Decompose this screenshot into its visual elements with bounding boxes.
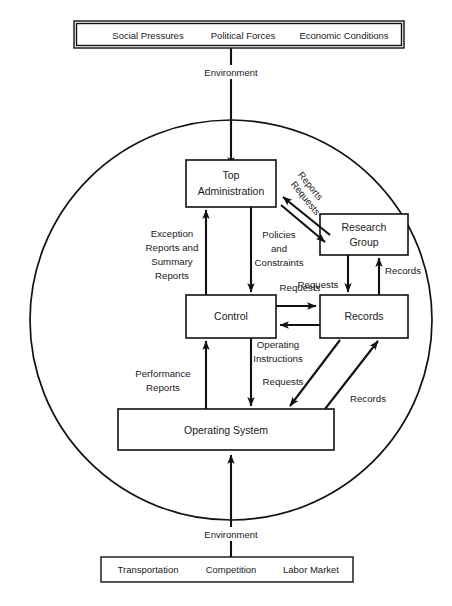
bottom-env-item-1: Competition <box>206 564 257 575</box>
edge-label-exception-line4: Reports <box>155 270 189 281</box>
edge-label-exception-line3: Summary <box>151 256 193 267</box>
edge-label-requests-operating-system: Requests <box>263 376 304 387</box>
edge-label-operating-line2: Instructions <box>253 353 303 364</box>
edge-label-performance-line2: Reports <box>146 382 180 393</box>
node-label-research-group-line2: Group <box>349 236 378 248</box>
node-label-records: Records <box>344 310 383 322</box>
node-label-top-administration-line2: Administration <box>198 185 265 197</box>
edge-label-operating-line1: Operating <box>257 339 300 350</box>
bottom-env-item-2: Labor Market <box>283 564 339 575</box>
edge-label-policies-line3: Constraints <box>255 257 304 268</box>
edge-label-requests-control-records-hidden: Requests <box>280 282 321 293</box>
edge-label-records-operating-system: Records <box>350 393 386 404</box>
bottom-env-item-0: Transportation <box>118 564 179 575</box>
env-label-top: Environment <box>204 67 258 78</box>
edge-label-exception-line2: Reports and <box>146 242 199 253</box>
edge-label-records-research-group: Records <box>385 265 421 276</box>
edge-label-performance-line1: Performance <box>135 368 190 379</box>
node-label-operating-system: Operating System <box>184 424 268 436</box>
node-top-administration[interactable] <box>186 160 276 207</box>
top-env-item-2: Economic Conditions <box>299 30 388 41</box>
organization-information-flow-diagram: Social Pressures Political Forces Econom… <box>0 0 452 606</box>
node-label-top-administration-line1: Top <box>223 169 240 181</box>
env-label-bottom: Environment <box>204 529 258 540</box>
edge-label-exception-line1: Exception <box>151 228 194 239</box>
edge-label-policies-line1: Policies <box>262 229 296 240</box>
top-env-item-0: Social Pressures <box>112 30 184 41</box>
edge-label-policies-line2: and <box>271 243 287 254</box>
node-label-research-group-line1: Research <box>342 221 387 233</box>
top-env-item-1: Political Forces <box>211 30 276 41</box>
node-label-control: Control <box>214 310 248 322</box>
